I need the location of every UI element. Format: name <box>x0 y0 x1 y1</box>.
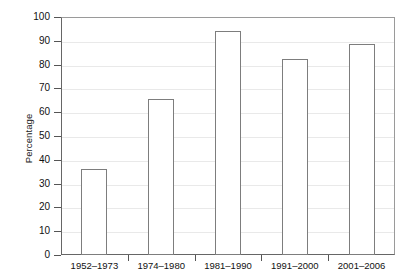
y-axis-tick-label: 0 <box>22 250 50 260</box>
y-axis-tick <box>54 160 61 161</box>
bar[interactable] <box>215 31 241 255</box>
y-axis-tick <box>54 136 61 137</box>
y-axis-tick <box>54 65 61 66</box>
y-axis-tick <box>54 184 61 185</box>
bar[interactable] <box>148 99 174 255</box>
bar-chart: Percentage 01020304050607080901001952–19… <box>0 0 409 277</box>
x-axis-tick-label: 1991–2000 <box>261 260 328 271</box>
x-axis-tick-label: 1974–1980 <box>128 260 195 271</box>
y-axis-tick-label: 60 <box>22 107 50 117</box>
y-axis-tick-label: 10 <box>22 226 50 236</box>
x-axis-tick-label: 1981–1990 <box>195 260 262 271</box>
y-axis-tick-label: 70 <box>22 83 50 93</box>
y-axis-tick-label: 80 <box>22 60 50 70</box>
y-axis-tick-label: 100 <box>22 12 50 22</box>
y-axis-tick <box>54 41 61 42</box>
y-axis-tick <box>54 112 61 113</box>
y-axis-tick-label: 30 <box>22 179 50 189</box>
x-axis-tick-label: 2001–2006 <box>328 260 395 271</box>
y-axis-tick <box>54 231 61 232</box>
x-axis-tick-label: 1952–1973 <box>61 260 128 271</box>
y-axis-tick-label: 20 <box>22 202 50 212</box>
bar[interactable] <box>349 44 375 255</box>
y-axis-tick <box>54 207 61 208</box>
y-axis-tick-label: 90 <box>22 36 50 46</box>
y-axis-tick <box>54 17 61 18</box>
y-axis-tick-label: 50 <box>22 131 50 141</box>
bar[interactable] <box>282 59 308 255</box>
y-axis-tick <box>54 88 61 89</box>
y-axis-tick-label: 40 <box>22 155 50 165</box>
bar[interactable] <box>81 169 107 255</box>
y-axis-tick <box>54 255 61 256</box>
